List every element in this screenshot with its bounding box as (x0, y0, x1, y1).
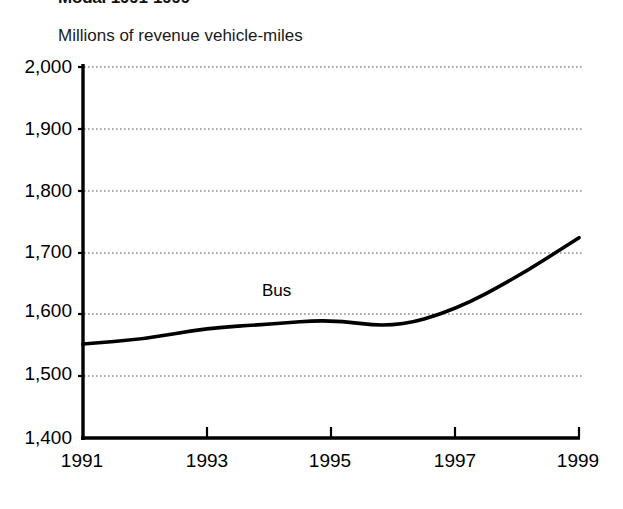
plot-area (0, 0, 623, 509)
gridlines (84, 67, 582, 376)
chart-figure: Modal 1991-1999 Millions of revenue vehi… (0, 0, 623, 509)
